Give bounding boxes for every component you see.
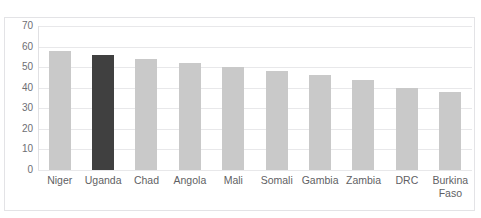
y-tick-label-70: 70 xyxy=(3,21,33,31)
bar-niger[interactable] xyxy=(49,51,71,170)
bar-slot xyxy=(429,26,472,170)
x-tick-label-burkina-faso: Burkina Faso xyxy=(422,174,478,200)
bar-gambia[interactable] xyxy=(309,75,331,170)
y-tick-label-0: 0 xyxy=(3,165,33,175)
clipped-caption-text xyxy=(0,0,481,6)
x-axis-tick-labels: NigerUgandaChadAngolaMaliSomaliGambiaZam… xyxy=(38,174,472,208)
y-tick-label-60: 60 xyxy=(3,42,33,52)
y-tick-label-20: 20 xyxy=(3,124,33,134)
bar-slot xyxy=(81,26,124,170)
bar-zambia[interactable] xyxy=(352,80,374,171)
bar-angola[interactable] xyxy=(179,63,201,170)
bar-chart-figure: 706050403020100 NigerUgandaChadAngolaMal… xyxy=(0,0,481,218)
bar-mali[interactable] xyxy=(222,67,244,170)
bar-drc[interactable] xyxy=(396,88,418,170)
bar-slot xyxy=(385,26,428,170)
bar-slot xyxy=(125,26,168,170)
bar-burkina-faso[interactable] xyxy=(439,92,461,170)
y-tick-label-10: 10 xyxy=(3,144,33,154)
y-axis-tick-labels: 706050403020100 xyxy=(0,26,33,170)
y-tick-label-40: 40 xyxy=(3,83,33,93)
bar-slot xyxy=(342,26,385,170)
bar-somali[interactable] xyxy=(266,71,288,170)
y-tick-label-30: 30 xyxy=(3,103,33,113)
bar-slot xyxy=(38,26,81,170)
bar-chad[interactable] xyxy=(135,59,157,170)
y-tick-label-50: 50 xyxy=(3,62,33,72)
bar-slot xyxy=(212,26,255,170)
bar-slot xyxy=(168,26,211,170)
gridline-y-0 xyxy=(38,170,472,171)
bar-slot xyxy=(298,26,341,170)
bars-layer xyxy=(38,26,472,170)
bar-slot xyxy=(255,26,298,170)
bar-uganda[interactable] xyxy=(92,55,114,170)
